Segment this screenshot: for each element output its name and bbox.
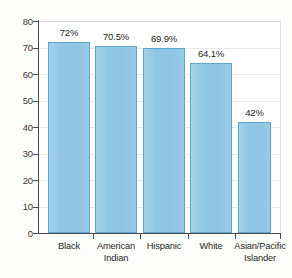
x-axis-label-american-indian: American Indian <box>91 241 141 264</box>
bar-value-black: 72% <box>48 28 90 38</box>
x-axis-label-hispanic-line1: Hispanic <box>139 241 189 253</box>
y-axis-label-50: 50 <box>3 96 33 106</box>
y-tick-20 <box>33 180 39 181</box>
y-axis-label-70: 70 <box>3 43 33 53</box>
y-axis-label-30: 30 <box>3 149 33 159</box>
y-axis-label-60: 60 <box>3 70 33 80</box>
y-tick-80 <box>33 21 39 22</box>
bar-value-american-indian: 70.5% <box>93 32 139 42</box>
x-tick-5 <box>280 234 281 239</box>
y-axis-label-10: 10 <box>3 202 33 212</box>
y-tick-70 <box>33 48 39 49</box>
y-tick-40 <box>33 127 39 128</box>
y-tick-10 <box>33 207 39 208</box>
x-axis-label-white-line1: White <box>187 241 235 253</box>
y-tick-0 <box>33 233 39 234</box>
x-axis-line <box>38 233 281 234</box>
x-axis-label-american-indian-line1: American <box>91 241 141 253</box>
y-axis-label-80: 80 <box>3 17 33 27</box>
x-tick-3 <box>188 234 189 239</box>
x-tick-2 <box>140 234 141 239</box>
y-tick-30 <box>33 154 39 155</box>
bar-black <box>48 42 90 233</box>
bar-white <box>190 63 232 233</box>
bar-american-indian <box>95 46 137 233</box>
x-axis-label-black: Black <box>45 241 93 253</box>
y-tick-50 <box>33 101 39 102</box>
x-axis-label-asian-pacific-islander-line2: Islander <box>230 253 290 265</box>
x-tick-1 <box>93 234 94 239</box>
x-axis-label-black-line1: Black <box>45 241 93 253</box>
y-axis-label-0: 0 <box>3 229 33 239</box>
y-tick-60 <box>33 74 39 75</box>
y-axis-label-20: 20 <box>3 176 33 186</box>
bar-asian-pacific-islander <box>238 122 271 233</box>
y-axis-label-40: 40 <box>3 123 33 133</box>
bar-value-hispanic: 69.9% <box>141 34 187 44</box>
bar-chart: 80 70 60 50 40 30 20 10 0 72% 70.5% 69.9… <box>0 0 292 278</box>
bar-value-white: 64.1% <box>188 49 234 59</box>
bar-value-asian-pacific-islander: 42% <box>237 108 272 118</box>
x-axis-label-hispanic: Hispanic <box>139 241 189 253</box>
x-axis-label-white: White <box>187 241 235 253</box>
x-tick-4 <box>235 234 236 239</box>
x-axis-label-american-indian-line2: Indian <box>91 253 141 265</box>
x-axis-label-asian-pacific-islander: Asian/Pacific Islander <box>230 241 290 264</box>
bar-hispanic <box>143 48 185 233</box>
x-axis-label-asian-pacific-islander-line1: Asian/Pacific <box>230 241 290 253</box>
